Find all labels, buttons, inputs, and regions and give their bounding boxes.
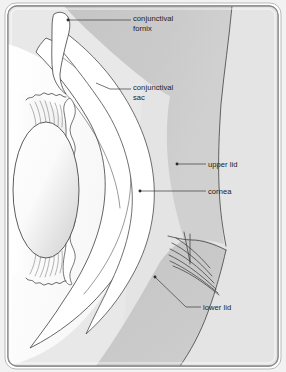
leader-dot-lower-lid (154, 276, 157, 279)
diagram-content: conjunctivalfornixconjunctivalsacupper l… (8, 6, 278, 366)
label-lower-lid: lower lid (203, 303, 231, 312)
label-conjunctival-fornix-line2: fornix (133, 24, 152, 33)
eye-diagram-svg: conjunctivalfornixconjunctivalsacupper l… (0, 0, 286, 372)
label-conjunctival-sac-line2: sac (133, 93, 145, 102)
label-cornea: cornea (208, 187, 232, 196)
leader-dot-upper-lid (176, 163, 179, 166)
leader-dot-conjunctival-fornix (67, 19, 70, 22)
label-upper-lid: upper lid (208, 160, 238, 169)
label-conjunctival-fornix: conjunctival (133, 14, 174, 23)
eye-anatomy-figure: conjunctivalfornixconjunctivalsacupper l… (0, 0, 286, 372)
label-conjunctival-sac: conjunctival (133, 83, 174, 92)
lens (13, 122, 79, 258)
leader-dot-cornea (139, 190, 142, 193)
